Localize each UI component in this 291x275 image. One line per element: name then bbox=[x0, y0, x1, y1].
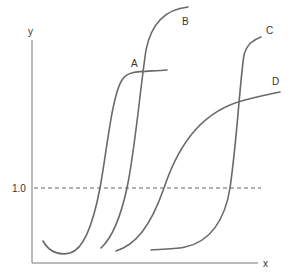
curve-d-label: D bbox=[272, 76, 279, 87]
y-axis-label: y bbox=[28, 26, 33, 37]
curve-c bbox=[151, 37, 261, 250]
curve-a-label: A bbox=[131, 58, 138, 69]
curve-d bbox=[116, 92, 280, 251]
reference-line-label: 1.0 bbox=[12, 183, 26, 194]
curve-a bbox=[43, 70, 167, 254]
diagram-canvas: y x 1.0 A B D C bbox=[0, 0, 291, 275]
curve-b-label: B bbox=[182, 16, 189, 27]
x-axis-label: x bbox=[263, 258, 268, 269]
curve-c-label: C bbox=[266, 25, 273, 36]
curve-b bbox=[101, 7, 188, 248]
